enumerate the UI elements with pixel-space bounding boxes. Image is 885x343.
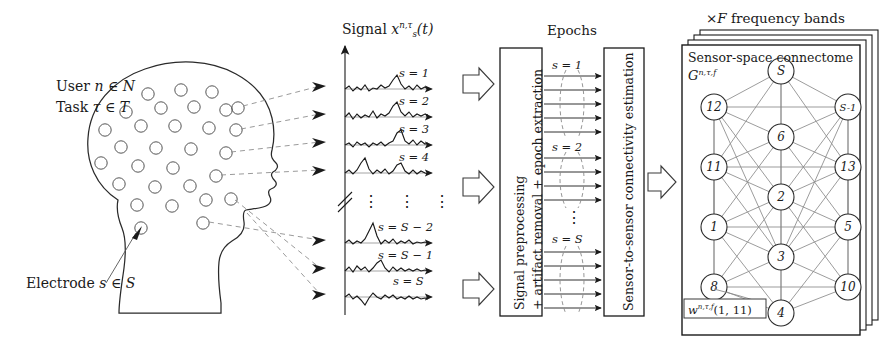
node-label: 4 <box>776 306 785 320</box>
connectome-graph-symbol: Gn,τ,f <box>688 68 716 83</box>
node-label: S <box>777 64 785 78</box>
connectome-node-10[interactable]: 10 <box>835 274 861 300</box>
connectome-node-13[interactable]: 13 <box>835 154 861 180</box>
node-label: 12 <box>706 100 721 114</box>
signal-ellipsis-3: ⋮ <box>434 192 450 211</box>
preprocessing-box-line2: + artifact removal + epoch extraction <box>530 69 545 310</box>
epoch-window-braces <box>560 70 584 314</box>
signal-ellipsis-2: ⋮ <box>399 192 415 211</box>
block-arrow-2 <box>463 171 494 203</box>
signal-label-7: s = S <box>393 274 424 288</box>
signal-label-3: s = 3 <box>399 122 429 136</box>
preprocessing-box-line1: Signal preprocessing <box>512 176 527 310</box>
connectome-node-2[interactable]: 2 <box>768 184 794 210</box>
signal-label-1: s = 1 <box>399 66 429 80</box>
node-label: 3 <box>777 250 785 264</box>
connectome-node-4[interactable]: 4 <box>768 300 794 326</box>
epochs-title: Epochs <box>547 22 597 38</box>
epoch-ellipsis: ⋮ <box>566 208 582 227</box>
node-label: 13 <box>840 160 856 174</box>
connectome-node-5[interactable]: 5 <box>835 214 861 240</box>
connectome-node-S-1[interactable]: S-1 <box>835 94 861 120</box>
node-label: S-1 <box>840 102 857 113</box>
node-label: 10 <box>840 280 856 294</box>
signal-label-2: s = 2 <box>399 94 429 108</box>
epoch-group-label-3: s = S <box>552 232 583 246</box>
block-arrow-group-2 <box>648 166 676 198</box>
connectome-node-12[interactable]: 12 <box>701 94 727 120</box>
weight-label: wn,τ,f(1, 11) <box>688 302 752 317</box>
task-label: Task τ ∈ T <box>56 99 129 115</box>
epoch-group-label-2: s = 2 <box>552 140 582 154</box>
node-label: 5 <box>844 220 852 234</box>
connectome-node-6[interactable]: 6 <box>768 124 794 150</box>
electrode-to-signal-leaders <box>209 86 320 294</box>
user-label: User n ∈ N <box>56 78 135 94</box>
block-arrow-1 <box>463 68 494 100</box>
epoch-group-label-1: s = 1 <box>552 58 582 72</box>
signal-label-6: s = S − 1 <box>378 248 433 262</box>
connectivity-box-line1: Sensor-to-sensor connectivity estimation <box>621 52 636 311</box>
connectome-panel-title: Sensor-space connectome <box>688 50 853 65</box>
node-label: 6 <box>777 130 785 144</box>
signal-ellipsis-1: ⋮ <box>363 192 379 211</box>
connectome-node-11[interactable]: 11 <box>701 154 727 180</box>
electrode-label: Electrode s ∈ S <box>26 275 135 291</box>
node-label: 2 <box>776 190 785 204</box>
signal-traces <box>345 75 432 305</box>
connectome-node-3[interactable]: 3 <box>768 244 794 270</box>
frequency-bands-title: ×F frequency bands <box>706 10 845 26</box>
signal-title: Signal xn,τs(t) <box>342 20 433 39</box>
node-label: 8 <box>710 280 718 294</box>
figure-canvas: S12S-16111321538104 User n ∈ N Task τ ∈ … <box>0 0 885 343</box>
connectome-node-8[interactable]: 8 <box>701 274 727 300</box>
node-label: 1 <box>710 220 718 234</box>
signal-label-4: s = 4 <box>399 150 429 164</box>
signal-label-5: s = S − 2 <box>378 220 433 234</box>
block-arrow-group-1 <box>463 68 494 305</box>
block-arrow-3 <box>463 273 494 305</box>
block-arrow-4 <box>648 166 676 198</box>
connectome-node-1[interactable]: 1 <box>701 214 727 240</box>
epoch-arrow-bundle <box>544 76 601 308</box>
node-label: 11 <box>706 160 721 174</box>
